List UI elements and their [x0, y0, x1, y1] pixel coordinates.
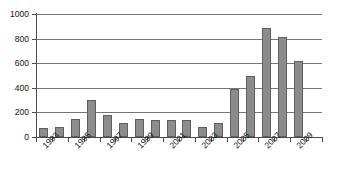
y-axis-tick-label: 200 [0, 108, 29, 117]
bar [294, 61, 303, 137]
y-axis-tick-label: 0 [0, 133, 29, 142]
x-axis-tick [36, 138, 37, 142]
bar-chart: 02004006008001000 1993199519971999200120… [0, 0, 339, 172]
bar [103, 115, 112, 137]
x-axis-tick [131, 138, 132, 142]
x-axis-tick [163, 138, 164, 142]
bar [230, 89, 239, 137]
bar [71, 119, 80, 137]
bar [246, 76, 255, 137]
bar [87, 100, 96, 137]
x-axis-tick [258, 138, 259, 142]
y-axis-tick-label: 400 [0, 84, 29, 93]
bar-series [36, 14, 322, 137]
x-axis-tick [68, 138, 69, 142]
bar [278, 37, 287, 137]
x-axis-tick [100, 138, 101, 142]
y-axis-tick-label: 600 [0, 59, 29, 68]
x-axis-tick [290, 138, 291, 142]
y-axis-tick-label: 800 [0, 35, 29, 44]
x-axis-tick [195, 138, 196, 142]
bar [262, 28, 271, 137]
x-axis-tick [322, 138, 323, 142]
x-axis-tick [227, 138, 228, 142]
y-axis-tick-label: 1000 [0, 10, 29, 19]
